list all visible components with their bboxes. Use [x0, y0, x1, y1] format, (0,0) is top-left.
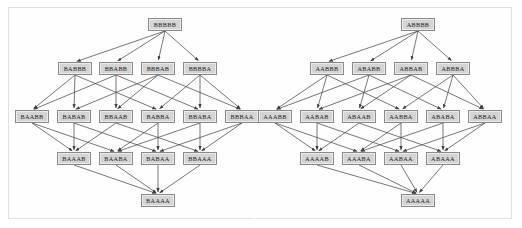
node-bbaba: BBABA	[183, 110, 217, 123]
node-abaaa: ABAAA	[426, 152, 460, 165]
node-abbab: ABBAB	[394, 62, 428, 75]
node-aaabb: AAABB	[258, 110, 292, 123]
node-aaaab: AAAAB	[300, 152, 334, 165]
node-aabaa: AABAA	[384, 152, 418, 165]
node-aabab: AABAB	[300, 110, 334, 123]
node-bbbba: BBBBA	[183, 62, 217, 75]
node-abbba: ABBBA	[436, 62, 470, 75]
node-abbaa: ABBAA	[468, 110, 502, 123]
node-ababb: ABABB	[352, 62, 386, 75]
node-abaab: ABAAB	[342, 110, 376, 123]
node-bbaaa: BBAAA	[183, 152, 217, 165]
node-abbbb: ABBBB	[401, 18, 435, 31]
node-babab: BABAB	[57, 110, 91, 123]
node-bbabb: BBABB	[99, 62, 133, 75]
node-aaaba: AAABA	[342, 152, 376, 165]
node-aabba: AABBA	[384, 110, 418, 123]
node-baabb: BAABB	[15, 110, 49, 123]
node-ababa: ABABA	[426, 110, 460, 123]
node-aabbb: AABBB	[310, 62, 344, 75]
node-babbb: BABBB	[58, 62, 92, 75]
diagram-canvas: BBBBBBABBBBBABBBBBABBBBBABAABBBABABBBAAB…	[0, 0, 522, 228]
node-baaab: BAAAB	[57, 152, 91, 165]
node-babba: BABBA	[141, 110, 175, 123]
node-bbaab: BBAAB	[99, 110, 133, 123]
node-bbbbb: BBBBB	[148, 18, 182, 31]
node-aaaaa: AAAAA	[401, 194, 435, 207]
node-bbbab: BBBAB	[141, 62, 175, 75]
node-bbbaa: BBBAA	[225, 110, 259, 123]
node-baaba: BAABA	[99, 152, 133, 165]
node-babaa: BABAA	[141, 152, 175, 165]
node-baaaa: BAAAA	[141, 194, 175, 207]
